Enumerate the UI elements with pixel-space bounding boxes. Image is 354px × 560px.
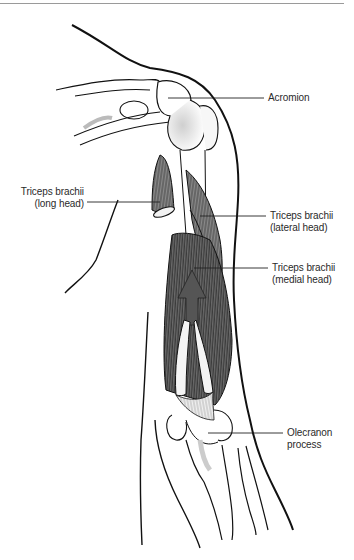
medial-epicondyle [214,410,232,441]
label-olecranon-process: Olecranon process [287,427,332,451]
arm-outline-medial [65,200,118,293]
radius-1 [222,445,233,540]
radius-3 [246,446,268,530]
lateral-epicondyle [167,415,187,440]
clavicle [56,80,160,91]
label-triceps-medial-head: Triceps brachii (medial head) [272,262,335,286]
olecranon-shade [200,440,210,470]
long-head-muscle [152,155,174,213]
label-olecranon-line2: process [287,439,332,451]
label-acromion: Acromion [268,92,309,104]
label-olecranon-line1: Olecranon [287,427,332,439]
label-lateral-head-line1: Triceps brachii [270,210,333,222]
label-long-head-line2: (long head) [6,198,84,210]
radius-2 [238,448,256,535]
label-medial-head-line1: Triceps brachii [272,262,335,274]
label-triceps-lateral-head: Triceps brachii (lateral head) [270,210,333,234]
label-triceps-long-head: Triceps brachii (long head) [6,186,84,210]
scapula-spine [74,89,170,145]
label-acromion-text: Acromion [268,92,309,104]
label-lateral-head-line2: (lateral head) [270,222,333,234]
label-long-head-line1: Triceps brachii [6,186,84,198]
label-medial-head-line2: (medial head) [272,274,335,286]
forearm-outline-1 [140,312,148,545]
anatomy-figure: Acromion Triceps brachii (long head) Tri… [0,0,354,560]
